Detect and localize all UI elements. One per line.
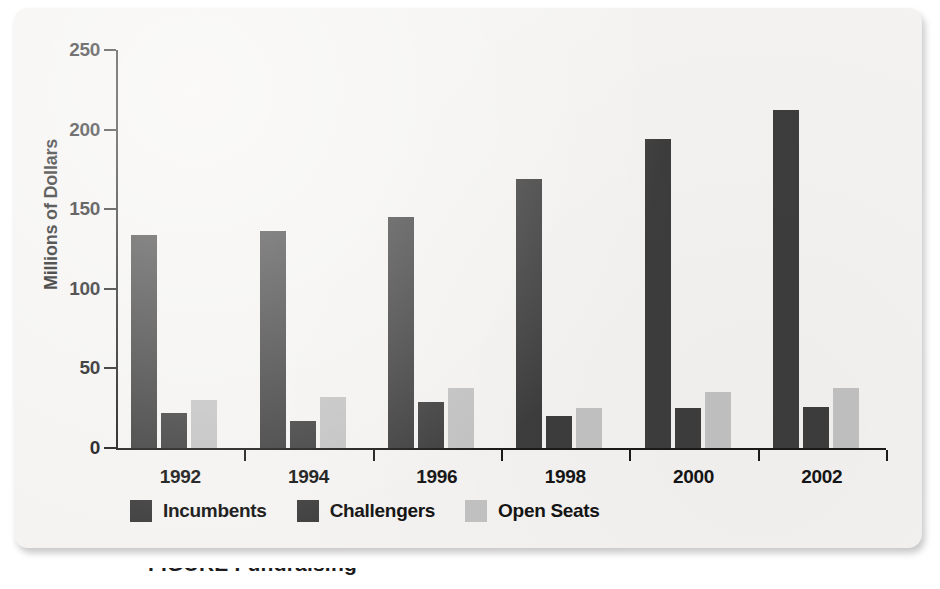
x-axis-tick xyxy=(886,450,888,461)
bar-open-seats-2000 xyxy=(705,392,731,448)
legend-swatch-icon xyxy=(465,500,487,522)
y-axis-tick xyxy=(104,208,116,210)
y-axis-tick-label: 250 xyxy=(38,40,100,59)
bar-challengers-1994 xyxy=(290,421,316,448)
bar-incumbents-2000 xyxy=(645,139,671,448)
chart-card: Millions of Dollars 050100150200250 1992… xyxy=(14,8,922,548)
x-axis-tick-label: 2002 xyxy=(758,466,886,488)
figure-caption: FIGURE Fundraising xyxy=(148,568,357,576)
bar-challengers-1998 xyxy=(546,416,572,448)
bar-open-seats-1994 xyxy=(320,397,346,448)
legend-item-incumbents: Incumbents xyxy=(130,500,267,522)
x-axis-tick xyxy=(758,450,760,461)
x-axis-tick xyxy=(244,450,246,461)
figure-caption-strip: FIGURE Fundraising xyxy=(0,568,940,589)
y-axis-line xyxy=(116,50,118,450)
figure-page: Millions of Dollars 050100150200250 1992… xyxy=(0,0,940,589)
legend-swatch-icon xyxy=(130,500,152,522)
y-axis-tick xyxy=(104,367,116,369)
y-axis-tick xyxy=(104,447,116,449)
legend-item-open-seats: Open Seats xyxy=(465,500,600,522)
y-axis-tick xyxy=(104,129,116,131)
bar-open-seats-1998 xyxy=(576,408,602,448)
bar-incumbents-1996 xyxy=(388,217,414,448)
legend-swatch-icon xyxy=(297,500,319,522)
chart-legend: IncumbentsChallengersOpen Seats xyxy=(130,500,600,522)
bar-challengers-2002 xyxy=(803,407,829,448)
x-axis-tick-label: 1996 xyxy=(373,466,501,488)
y-axis-tick-label: 150 xyxy=(38,199,100,218)
y-axis-tick-label: 50 xyxy=(38,358,100,377)
bar-open-seats-1996 xyxy=(448,388,474,448)
y-axis-tick xyxy=(104,49,116,51)
bar-incumbents-1998 xyxy=(516,179,542,448)
bar-challengers-1996 xyxy=(418,402,444,448)
y-axis-labels: 050100150200250 xyxy=(14,8,100,548)
y-axis-tick-label: 200 xyxy=(38,120,100,139)
x-axis-tick-label: 1998 xyxy=(501,466,629,488)
x-axis-tick xyxy=(501,450,503,461)
legend-label: Challengers xyxy=(330,500,435,522)
x-axis-tick-label: 1994 xyxy=(244,466,372,488)
legend-label: Open Seats xyxy=(498,500,600,522)
legend-label: Incumbents xyxy=(163,500,267,522)
y-axis-tick xyxy=(104,288,116,290)
y-axis-tick-label: 0 xyxy=(38,438,100,457)
bar-chart: Millions of Dollars 050100150200250 1992… xyxy=(14,8,922,548)
bar-challengers-1992 xyxy=(161,413,187,448)
x-axis-tick-label: 1992 xyxy=(116,466,244,488)
bar-open-seats-1992 xyxy=(191,400,217,448)
bar-incumbents-1994 xyxy=(260,231,286,448)
x-axis-tick-label: 2000 xyxy=(629,466,757,488)
y-axis-tick-label: 100 xyxy=(38,279,100,298)
x-axis-tick xyxy=(629,450,631,461)
legend-item-challengers: Challengers xyxy=(297,500,435,522)
bar-open-seats-2002 xyxy=(833,388,859,448)
bar-challengers-2000 xyxy=(675,408,701,448)
bar-incumbents-2002 xyxy=(773,110,799,448)
bar-incumbents-1992 xyxy=(131,235,157,448)
x-axis-tick xyxy=(373,450,375,461)
